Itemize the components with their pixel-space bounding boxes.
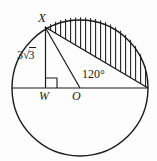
geometry-diagram-svg [0,0,157,161]
center-label-o: O [72,90,81,102]
right-angle-mark [46,78,57,88]
geometry-figure: X W O 120° 3√3 [0,0,157,161]
vertex-label-x: X [38,11,46,24]
vertex-label-w: W [39,90,49,102]
radical-group: √3 [23,49,36,61]
shaded-segment [0,0,157,161]
length-label-3-root-3: 3√3 [17,49,36,61]
angle-label-120: 120° [82,68,105,80]
radicand-value: 3 [29,47,36,62]
